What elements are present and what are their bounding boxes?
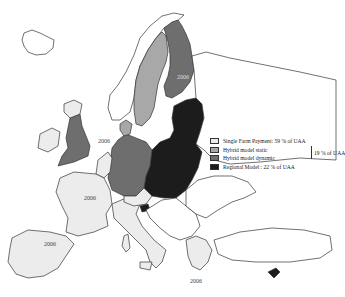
legend-swatch xyxy=(210,164,219,170)
year-label-france: 2006 xyxy=(84,195,96,201)
legend-item-hybrid-static: Hybrid model static xyxy=(210,146,306,155)
east-europe xyxy=(186,176,256,218)
legend-brace xyxy=(307,146,312,159)
greece-sfp xyxy=(186,236,212,270)
iberia-sfp xyxy=(8,230,74,278)
sicily xyxy=(140,262,152,270)
great-britain xyxy=(58,114,90,166)
france-sfp xyxy=(56,172,112,236)
denmark xyxy=(120,120,132,136)
legend-label: Hybrid model dynamic xyxy=(223,154,275,162)
legend-label: Single Farm Payment: 59 % of UAA xyxy=(223,137,306,145)
year-label-finland: 2006 xyxy=(177,74,189,80)
turkey xyxy=(214,228,332,262)
ireland xyxy=(38,128,60,152)
year-label-spain: 2006 xyxy=(44,241,56,247)
finland-hybrid-dynamic xyxy=(164,20,194,98)
legend-label: Hybrid model static xyxy=(223,146,267,154)
legend-swatch xyxy=(210,155,219,161)
legend-item-hybrid-dynamic: Hybrid model dynamic xyxy=(210,154,306,163)
year-label-greece: 2006 xyxy=(190,278,202,284)
year-label-denmark: 2006 xyxy=(98,138,110,144)
cyprus-regional xyxy=(268,268,280,278)
sardinia xyxy=(122,234,130,252)
legend-swatch xyxy=(210,138,219,144)
legend-item-single-farm-payment: Single Farm Payment: 59 % of UAA xyxy=(210,137,306,146)
hybrid-group-label: 19 % of UAA xyxy=(314,149,345,157)
map-legend: Single Farm Payment: 59 % of UAA Hybrid … xyxy=(210,137,306,171)
legend-swatch xyxy=(210,147,219,153)
legend-label: Regional Model : 22 % of UAA xyxy=(223,163,295,171)
legend-item-regional: Regional Model : 22 % of UAA xyxy=(210,163,306,172)
iceland xyxy=(22,30,54,55)
